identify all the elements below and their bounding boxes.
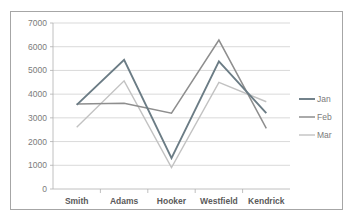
- y-axis-tick-label: 3000: [28, 113, 47, 123]
- legend-label-mar: Mar: [317, 130, 332, 140]
- x-axis-category-label: Hooker: [157, 196, 187, 206]
- x-axis-category-label: Smith: [65, 196, 89, 206]
- line-chart: 01000200030004000500060007000SmithAdamsH…: [11, 12, 342, 209]
- y-axis-tick-label: 6000: [28, 42, 47, 52]
- legend-label-jan: Jan: [317, 94, 331, 104]
- series-group: [77, 40, 267, 168]
- y-axis-tick-label: 7000: [28, 18, 47, 28]
- y-axis-tick-label: 5000: [28, 65, 47, 75]
- legend: JanFebMar: [299, 94, 332, 140]
- y-axis-tick-label: 0: [42, 184, 47, 194]
- x-axis-category-label: Kendrick: [248, 196, 285, 206]
- y-axis-tick-label: 4000: [28, 89, 47, 99]
- x-axis-labels: SmithAdamsHookerWestfieldKendrick: [65, 196, 285, 206]
- x-axis-category-label: Adams: [110, 196, 139, 206]
- chart-container: 01000200030004000500060007000SmithAdamsH…: [10, 11, 343, 210]
- y-axis-tick-label: 2000: [28, 137, 47, 147]
- gridlines: 01000200030004000500060007000: [28, 18, 290, 194]
- x-axis-category-label: Westfield: [200, 196, 238, 206]
- series-line-feb: [77, 40, 267, 128]
- legend-label-feb: Feb: [317, 112, 332, 122]
- y-axis-tick-label: 1000: [28, 160, 47, 170]
